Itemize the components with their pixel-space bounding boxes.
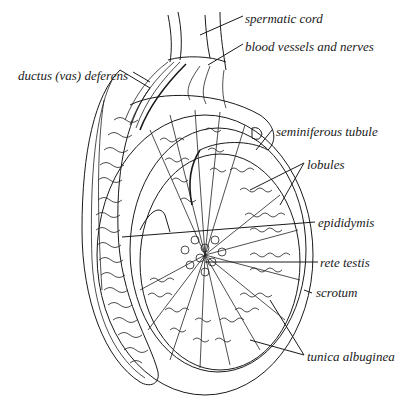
label-rete-testis: rete testis [320, 256, 370, 269]
anatomy-illustration [0, 0, 406, 406]
label-tunica-albuginea: tunica albuginea [307, 350, 395, 363]
testis-diagram: spermatic cord blood vessels and nerves … [0, 0, 406, 406]
label-scrotum: scrotum [316, 286, 357, 299]
label-epididymis: epididymis [318, 216, 374, 229]
tunica-albuginea-outline [130, 128, 306, 372]
label-spermatic-cord: spermatic cord [245, 12, 323, 25]
label-ductus-vas-deferens: ductus (vas) deferens [18, 69, 128, 82]
lobule-septa [140, 110, 300, 368]
rete-testis-network [181, 236, 226, 276]
label-seminiferous-tubule: seminiferous tubule [276, 125, 378, 138]
seminiferous-tubules [148, 128, 290, 342]
label-blood-vessels-and-nerves: blood vessels and nerves [245, 40, 374, 53]
leader-lines [122, 16, 318, 355]
spermatic-cord [168, 15, 171, 62]
label-lobules: lobules [307, 158, 345, 171]
